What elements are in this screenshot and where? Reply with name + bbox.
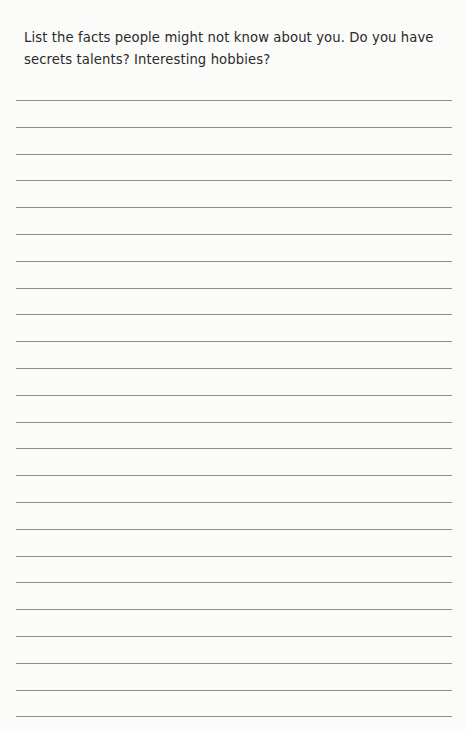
writing-line[interactable] (16, 127, 452, 128)
writing-line[interactable] (16, 690, 452, 691)
writing-line[interactable] (16, 448, 452, 449)
writing-lines[interactable] (16, 0, 452, 731)
writing-line[interactable] (16, 100, 452, 101)
writing-line[interactable] (16, 716, 452, 717)
writing-line[interactable] (16, 261, 452, 262)
writing-line[interactable] (16, 556, 452, 557)
writing-line[interactable] (16, 422, 452, 423)
writing-line[interactable] (16, 529, 452, 530)
writing-line[interactable] (16, 502, 452, 503)
writing-line[interactable] (16, 234, 452, 235)
writing-line[interactable] (16, 636, 452, 637)
writing-line[interactable] (16, 395, 452, 396)
writing-line[interactable] (16, 582, 452, 583)
writing-line[interactable] (16, 475, 452, 476)
writing-line[interactable] (16, 609, 452, 610)
writing-line[interactable] (16, 663, 452, 664)
writing-line[interactable] (16, 288, 452, 289)
writing-line[interactable] (16, 368, 452, 369)
writing-line[interactable] (16, 207, 452, 208)
writing-line[interactable] (16, 314, 452, 315)
writing-line[interactable] (16, 154, 452, 155)
writing-line[interactable] (16, 341, 452, 342)
writing-line[interactable] (16, 180, 452, 181)
